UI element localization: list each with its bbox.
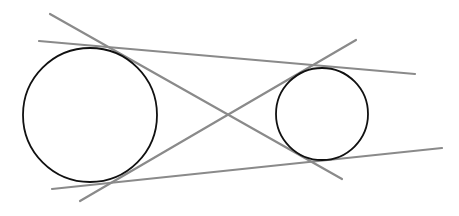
tangent-diagram [0,0,459,216]
background [0,0,459,216]
